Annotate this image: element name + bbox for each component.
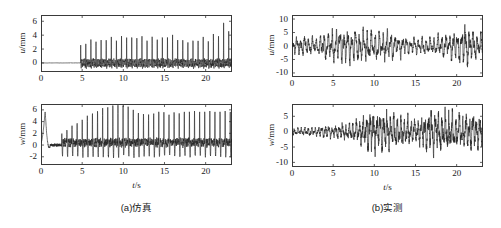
- x-axis-label-meas-w: t/s: [358, 182, 418, 192]
- caption-a: (a)仿真: [37, 200, 237, 214]
- xtick-label-meas-w-2: 10: [364, 169, 384, 178]
- signal-line-meas-w: [292, 107, 483, 158]
- figure-container: 024605101520u/mm-2024605101520w/mmt/s-10…: [0, 0, 501, 228]
- y-axis-label-meas-w: w/mm: [266, 117, 276, 153]
- xtick-label-meas-w-0: 0: [282, 169, 302, 178]
- plot-panel-meas-w: -10-50505101520w/mmt/s: [0, 0, 501, 228]
- xtick-label-meas-w-4: 20: [447, 169, 467, 178]
- caption-b: (b)实测: [288, 200, 488, 214]
- y-axis-variable-meas-w: w: [266, 140, 276, 146]
- ytick-label-meas-w-0: -10: [260, 158, 288, 167]
- waveform-meas-w: [292, 104, 483, 167]
- xtick-label-meas-w-3: 15: [405, 169, 425, 178]
- y-axis-unit-meas-w: /mm: [266, 123, 276, 140]
- x-axis-unit-meas-w: /s: [386, 182, 392, 192]
- xtick-label-meas-w-1: 5: [323, 169, 343, 178]
